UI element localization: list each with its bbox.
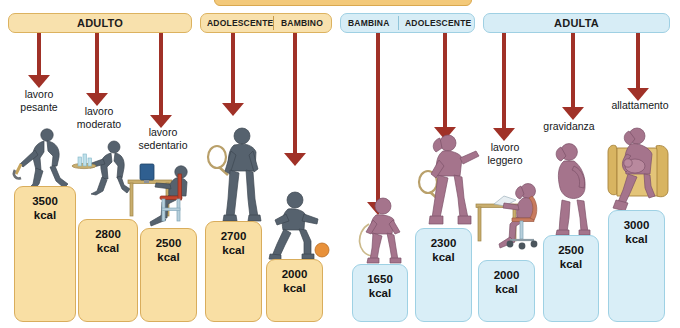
- header-divider-1: [273, 16, 274, 30]
- kcal-box-2500[interactable]: 2500 kcal: [140, 228, 197, 322]
- kcal-value: 3000: [624, 219, 650, 233]
- kcal-box-2000-bambino[interactable]: 2000 kcal: [266, 259, 323, 322]
- figure-lavoro-leggero: [472, 178, 554, 260]
- header-label-bambina: BAMBINA: [348, 18, 390, 28]
- kcal-unit: kcal: [495, 283, 517, 297]
- header-label-adulto: ADULTO: [77, 17, 123, 29]
- kcal-value: 1650: [367, 273, 393, 287]
- caption-allattamento: allattamento: [600, 99, 680, 112]
- arrow-lavoro-leggero: [493, 33, 515, 141]
- kcal-unit: kcal: [283, 282, 305, 296]
- arrow-bambina: [367, 33, 389, 215]
- kcal-value: 2000: [494, 269, 520, 283]
- figure-lavoro-pesante: [14, 126, 80, 192]
- figure-bambina: [356, 196, 414, 266]
- kcal-unit: kcal: [625, 233, 647, 247]
- figure-bambino: [268, 190, 330, 262]
- arrow-adolescente-femmina: [434, 33, 456, 140]
- header-label-adolescente-f: ADOLESCENTE: [405, 18, 471, 28]
- header-label-adulta: ADULTA: [554, 17, 599, 29]
- kcal-unit: kcal: [369, 287, 391, 301]
- header-pill-bambina-adolescente[interactable]: BAMBINA ADOLESCENTE: [340, 13, 475, 33]
- header-label-adolescente-m: ADOLESCENTE: [207, 18, 273, 28]
- kcal-box-2500-gravidanza[interactable]: 2500 kcal: [543, 235, 599, 322]
- top-banner-strip: [214, 0, 472, 6]
- kcal-box-3000[interactable]: 3000 kcal: [608, 210, 665, 322]
- arrow-allattamento: [627, 33, 649, 101]
- header-divider-2: [398, 16, 399, 30]
- caption-gravidanza: gravidanza: [532, 120, 606, 133]
- arrow-lavoro-pesante: [28, 33, 50, 88]
- kcal-unit: kcal: [222, 244, 244, 258]
- header-pill-adulta[interactable]: ADULTA: [483, 13, 670, 33]
- kcal-value: 2500: [156, 237, 182, 251]
- kcal-unit: kcal: [157, 251, 179, 265]
- kcal-value: 2500: [558, 244, 584, 258]
- kcal-box-2300[interactable]: 2300 kcal: [415, 228, 472, 322]
- header-pill-adolescente-bambino[interactable]: ADOLESCENTE BAMBINO: [200, 13, 332, 33]
- kcal-value: 2800: [95, 228, 121, 242]
- figure-gravidanza: [544, 140, 602, 236]
- kcal-value: 2300: [431, 237, 457, 251]
- kcal-box-2700[interactable]: 2700 kcal: [205, 221, 262, 322]
- arrow-lavoro-sedentario: [150, 33, 172, 128]
- header-label-bambino: BAMBINO: [281, 18, 323, 28]
- arrow-lavoro-moderato: [86, 33, 108, 106]
- figure-lavoro-sedentario: [120, 160, 200, 228]
- kcal-unit: kcal: [560, 258, 582, 272]
- kcal-value: 2000: [282, 268, 308, 282]
- kcal-box-2800[interactable]: 2800 kcal: [78, 219, 138, 322]
- kcal-box-3500[interactable]: 3500 kcal: [14, 186, 76, 322]
- arrow-adolescente-maschio: [222, 33, 244, 116]
- infographic-root: ADULTO ADOLESCENTE BAMBINO BAMBINA ADOLE…: [0, 0, 680, 328]
- arrow-gravidanza: [562, 33, 584, 120]
- kcal-value: 3500: [32, 195, 58, 209]
- kcal-unit: kcal: [34, 209, 56, 223]
- figure-allattamento: [604, 122, 674, 214]
- header-pill-adulto[interactable]: ADULTO: [8, 13, 192, 33]
- kcal-unit: kcal: [97, 242, 119, 256]
- kcal-box-1650[interactable]: 1650 kcal: [352, 264, 408, 322]
- caption-lavoro-sedentario: lavoro sedentario: [124, 126, 202, 151]
- kcal-box-2000-adulta[interactable]: 2000 kcal: [478, 260, 535, 322]
- kcal-value: 2700: [221, 230, 247, 244]
- figure-adolescente-maschio: [206, 125, 268, 223]
- kcal-unit: kcal: [432, 251, 454, 265]
- arrow-bambino: [284, 33, 306, 166]
